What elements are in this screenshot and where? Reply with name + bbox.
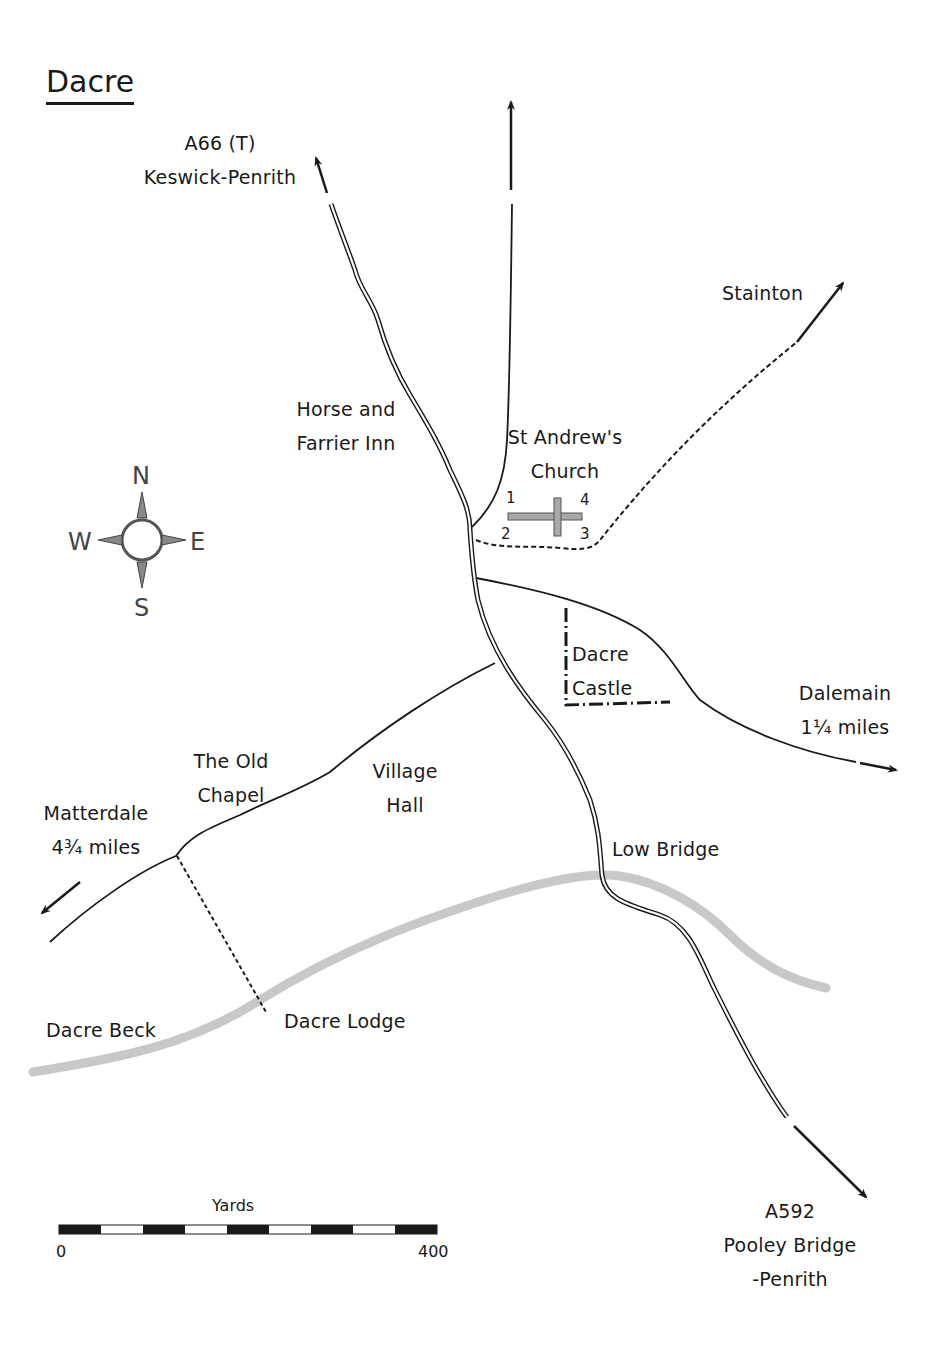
church-cross-icon	[508, 498, 582, 536]
scale-max: 400	[418, 1242, 449, 1262]
label-horse-and-farrier-inn: Horse and Farrier Inn	[276, 392, 416, 460]
compass-w: W	[68, 528, 92, 556]
church-marker-3: 3	[580, 526, 590, 542]
footpath-stainton	[476, 283, 843, 549]
label-old-chapel: The Old Chapel	[186, 744, 276, 812]
label-dacre-castle: Dacre Castle	[572, 637, 642, 705]
label-dacre-beck: Dacre Beck	[46, 1013, 156, 1047]
scale-bar	[59, 1225, 437, 1234]
scale-unit: Yards	[212, 1196, 254, 1216]
label-matterdale: Matterdale 4¾ miles	[36, 796, 156, 864]
compass-s: S	[134, 594, 149, 622]
footpath-dacre-lodge	[177, 856, 266, 1012]
map-title: Dacre	[46, 62, 134, 105]
church-marker-4: 4	[580, 492, 590, 508]
label-a66: A66 (T) Keswick-Penrith	[130, 126, 310, 194]
church-marker-1: 1	[506, 490, 516, 506]
label-st-andrews-church: St Andrew's Church	[500, 420, 630, 488]
label-dacre-lodge: Dacre Lodge	[284, 1004, 406, 1038]
compass-rose-icon	[98, 492, 186, 588]
compass-e: E	[190, 528, 205, 556]
scale-min: 0	[56, 1242, 66, 1262]
label-dalemain: Dalemain 1¼ miles	[790, 676, 900, 744]
label-village-hall: Village Hall	[360, 754, 450, 822]
label-a592: A592 Pooley Bridge -Penrith	[710, 1194, 870, 1296]
compass-n: N	[132, 462, 150, 490]
label-stainton: Stainton	[722, 276, 803, 310]
church-marker-2: 2	[501, 526, 511, 542]
label-low-bridge: Low Bridge	[612, 832, 719, 866]
